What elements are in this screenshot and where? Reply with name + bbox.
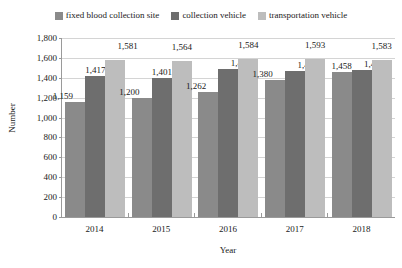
legend-item-label: collection vehicle xyxy=(182,11,246,20)
y-axis-tick-label: 1,800 xyxy=(37,33,57,43)
plot-area: 1,8001,6001,4001,2001,0008006004002000 1… xyxy=(61,38,395,218)
x-axis-title: Year xyxy=(61,245,395,255)
bar-group: 1,3801,4711,593 xyxy=(262,38,329,217)
y-axis-tick-label: 1,600 xyxy=(37,53,57,63)
y-axis-tick-label: 1,000 xyxy=(37,113,57,123)
legend-swatch-icon xyxy=(258,12,266,20)
bar-value-label: 1,401 xyxy=(152,67,172,77)
legend-item[interactable]: fixed blood collection site xyxy=(55,11,160,20)
bar-chart: fixed blood collection sitecollection ve… xyxy=(0,0,402,268)
x-axis-tick-label: 2014 xyxy=(61,224,128,234)
bar-value-label: 1,380 xyxy=(253,69,273,79)
bar[interactable]: 1,584 xyxy=(238,59,258,217)
x-axis-tick-labels: 20142015201620172018 xyxy=(61,224,395,234)
bar[interactable]: 1,417 xyxy=(85,76,105,217)
bar[interactable]: 1,401 xyxy=(152,78,172,217)
bar-value-label: 1,262 xyxy=(186,81,206,91)
bar[interactable]: 1,262 xyxy=(198,92,218,217)
bar[interactable]: 1,380 xyxy=(265,80,285,217)
y-axis-tick-label: 400 xyxy=(44,172,58,182)
bar-value-label: 1,593 xyxy=(305,40,325,50)
y-axis-tick-label: 0 xyxy=(53,212,58,222)
bar-group: 1,2621,4841,584 xyxy=(195,38,262,217)
y-axis-tick-label: 800 xyxy=(44,132,58,142)
x-axis-tick-label: 2018 xyxy=(328,224,395,234)
y-axis-tick-label: 200 xyxy=(44,192,58,202)
bar[interactable]: 1,471 xyxy=(285,71,305,217)
bar[interactable]: 1,200 xyxy=(132,98,152,217)
x-axis-tick-label: 2016 xyxy=(195,224,262,234)
x-axis-tick-label: 2017 xyxy=(261,224,328,234)
bar-value-label: 1,417 xyxy=(85,65,105,75)
bar-group: 1,1591,4171,581 xyxy=(62,38,129,217)
legend-item[interactable]: collection vehicle xyxy=(171,11,246,20)
legend-swatch-icon xyxy=(55,12,63,20)
bar[interactable]: 1,583 xyxy=(372,60,392,217)
y-axis-title: Number xyxy=(7,88,17,148)
bar[interactable]: 1,581 xyxy=(105,60,125,217)
bar[interactable]: 1,483 xyxy=(352,70,372,217)
legend-item-label: transportation vehicle xyxy=(269,11,347,20)
bar-value-label: 1,564 xyxy=(172,42,192,52)
x-axis-tick-label: 2015 xyxy=(128,224,195,234)
chart-legend: fixed blood collection sitecollection ve… xyxy=(0,11,402,20)
y-axis-tick-label: 600 xyxy=(44,152,58,162)
legend-swatch-icon xyxy=(171,12,179,20)
legend-item-label: fixed blood collection site xyxy=(66,11,160,20)
bar[interactable]: 1,458 xyxy=(332,72,352,217)
bar[interactable]: 1,484 xyxy=(218,69,238,217)
legend-item[interactable]: transportation vehicle xyxy=(258,11,347,20)
bar-value-label: 1,458 xyxy=(332,61,352,71)
bar-value-label: 1,200 xyxy=(119,87,139,97)
bar[interactable]: 1,593 xyxy=(305,59,325,217)
y-axis-tick-label: 1,400 xyxy=(37,73,57,83)
bar-value-label: 1,584 xyxy=(238,40,258,50)
bar-value-label: 1,583 xyxy=(372,41,392,51)
bar-group: 1,2001,4011,564 xyxy=(129,38,196,217)
bar-groups: 1,1591,4171,5811,2001,4011,5641,2621,484… xyxy=(62,38,395,217)
bar-value-label: 1,159 xyxy=(53,91,73,101)
y-axis-tick-mark xyxy=(59,217,62,218)
bar-group: 1,4581,4831,583 xyxy=(328,38,395,217)
bar[interactable]: 1,159 xyxy=(65,102,85,217)
